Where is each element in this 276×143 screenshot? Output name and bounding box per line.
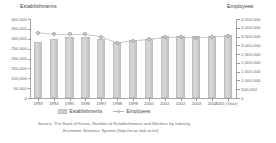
right-tick-label: 4,000,000	[241, 25, 261, 30]
right-tick-label: 500,000	[241, 87, 257, 92]
right-tick-label: 1,500,000	[241, 69, 261, 74]
right-tick-mark	[237, 63, 240, 64]
legend-item[interactable]: Employees	[113, 109, 150, 114]
left-tick-label: 250,000	[2, 46, 27, 51]
line-series	[30, 19, 236, 98]
legend-label: Employees	[127, 109, 151, 114]
source-line-1: Source: The Bank of Korea, Number of Est…	[38, 121, 191, 126]
legend-bar-swatch	[58, 109, 67, 114]
left-tick-mark	[28, 98, 31, 99]
right-tick-mark	[237, 72, 240, 73]
source-line-2: Economic Statistics System (http://ecos.…	[38, 128, 268, 135]
left-tick-label: 200,000	[2, 56, 27, 61]
right-tick-mark	[237, 19, 240, 20]
left-tick-label: 400,000	[2, 17, 27, 22]
data-point-marker	[131, 39, 135, 43]
right-tick-label: 4,500,000	[241, 17, 261, 22]
right-tick-mark	[237, 45, 240, 46]
right-tick-label: 0	[241, 96, 243, 101]
plot-area	[30, 19, 236, 98]
left-tick-label: 150,000	[2, 66, 27, 71]
chart-legend: EstablishmentsEmployees	[58, 107, 248, 116]
right-tick-label: 3,000,000	[241, 43, 261, 48]
right-tick-label: 3,500,000	[241, 34, 261, 39]
legend-line-swatch	[113, 110, 124, 114]
legend-item[interactable]: Establishments	[58, 109, 102, 114]
right-axis-line	[236, 19, 237, 98]
left-tick-label: 300,000	[2, 36, 27, 41]
right-tick-label: 2,500,000	[241, 52, 261, 57]
right-tick-mark	[237, 28, 240, 29]
right-tick-label: 2,000,000	[241, 60, 261, 65]
right-tick-mark	[237, 89, 240, 90]
left-axis-title: Establishments	[20, 3, 57, 9]
left-tick-label: 100,000	[2, 76, 27, 81]
right-tick-mark	[237, 98, 240, 99]
right-tick-label: 1,000,000	[241, 78, 261, 83]
left-tick-label: 50,000	[2, 86, 27, 91]
right-tick-mark	[237, 80, 240, 81]
right-tick-mark	[237, 37, 240, 38]
x-tick-label: 2005 (Year)	[215, 101, 245, 106]
chart-container: Establishments Employees 050,000100,0001…	[0, 0, 276, 143]
left-tick-label: 350,000	[2, 26, 27, 31]
source-note: Source: The Bank of Korea, Number of Est…	[38, 121, 268, 134]
data-point-marker	[36, 31, 40, 35]
legend-label: Establishments	[70, 109, 103, 114]
right-tick-mark	[237, 54, 240, 55]
left-tick-label: 0	[2, 96, 27, 101]
right-axis-title: Employees	[227, 3, 254, 9]
